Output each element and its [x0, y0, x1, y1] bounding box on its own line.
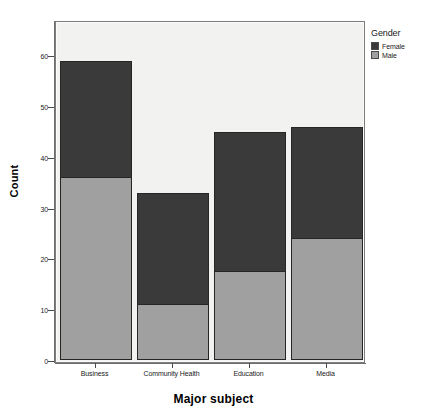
legend: Gender FemaleMale [371, 28, 427, 60]
y-tick-label: 0 [24, 358, 48, 365]
bar-segment-male[interactable] [291, 238, 363, 360]
y-tick-mark [48, 310, 54, 311]
x-axis-line [55, 363, 366, 364]
legend-swatch-icon [371, 51, 379, 59]
x-tick-label: Media [316, 370, 335, 377]
bar-segment-male[interactable] [214, 271, 286, 360]
x-tick-label: Education [233, 370, 263, 377]
y-tick-label: 30 [24, 205, 48, 212]
y-tick-mark [48, 56, 54, 57]
bar-group [291, 22, 363, 360]
bar-group [60, 22, 132, 360]
bar-segment-male[interactable] [137, 304, 209, 360]
bar-series-layer [56, 22, 364, 360]
x-tick-mark [326, 363, 327, 368]
x-tick-mark [249, 363, 250, 368]
y-tick-label: 50 [24, 104, 48, 111]
y-tick-label: 40 [24, 154, 48, 161]
y-axis-title: Count [8, 151, 20, 211]
bar-segment-female[interactable] [137, 193, 209, 305]
bar-group [214, 22, 286, 360]
bar-stack[interactable] [137, 193, 209, 360]
x-tick-label: Business [81, 370, 109, 377]
y-tick-label: 10 [24, 307, 48, 314]
bar-group [137, 22, 209, 360]
bar-segment-male[interactable] [60, 177, 132, 360]
x-axis-title: Major subject [0, 392, 427, 406]
legend-label: Male [382, 52, 397, 59]
y-tick-mark [48, 361, 54, 362]
x-tick-mark [172, 363, 173, 368]
bar-segment-female[interactable] [291, 127, 363, 239]
bar-stack[interactable] [291, 127, 363, 360]
legend-title: Gender [371, 28, 427, 38]
x-tick-label: Community Health [144, 370, 200, 377]
legend-items: FemaleMale [371, 42, 427, 59]
legend-swatch-icon [371, 42, 379, 50]
y-axis-line [54, 21, 55, 363]
plot-panel [55, 21, 365, 363]
y-tick-mark [48, 107, 54, 108]
bar-segment-female[interactable] [60, 61, 132, 178]
plot-area [56, 22, 364, 362]
y-tick-mark [48, 259, 54, 260]
legend-item[interactable]: Female [371, 42, 427, 50]
bar-segment-female[interactable] [214, 132, 286, 272]
legend-item[interactable]: Male [371, 51, 427, 59]
x-tick-mark [95, 363, 96, 368]
y-tick-mark [48, 158, 54, 159]
legend-label: Female [382, 43, 405, 50]
chart-container: 0102030405060 Count BusinessCommunity He… [0, 0, 427, 417]
y-tick-label: 20 [24, 256, 48, 263]
y-tick-label: 60 [24, 53, 48, 60]
y-tick-mark [48, 209, 54, 210]
bar-stack[interactable] [60, 61, 132, 360]
bar-stack[interactable] [214, 132, 286, 360]
